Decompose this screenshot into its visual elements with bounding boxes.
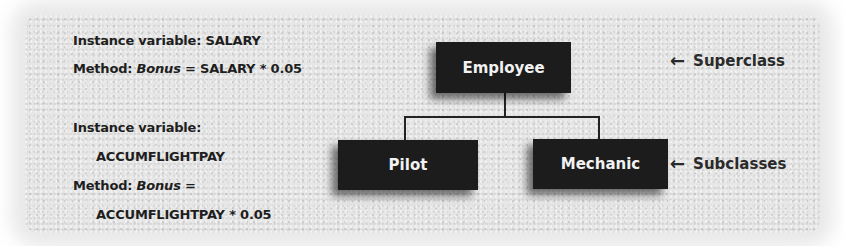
method-name: Bonus: [137, 61, 181, 76]
connector-horizontal: [404, 116, 600, 118]
method-expression: = SALARY * 0.05: [181, 61, 302, 76]
employee-label: Employee: [462, 59, 544, 77]
superclass-annotation: ← Superclass: [670, 52, 785, 70]
arrow-left-icon: ←: [670, 155, 685, 173]
subclasses-label: Subclasses: [693, 155, 786, 173]
mechanic-class-box: Mechanic: [533, 139, 668, 189]
method-prefix: Method:: [73, 178, 137, 193]
arrow-left-icon: ←: [670, 52, 685, 70]
subclass-method: Method: Bonus =: [73, 178, 196, 193]
superclass-instance-variable: Instance variable: SALARY: [73, 33, 261, 48]
connector-to-pilot: [404, 116, 406, 140]
subclass-instance-variable-label: Instance variable:: [73, 120, 201, 135]
connector-vertical-main: [504, 92, 506, 117]
subclasses-annotation: ← Subclasses: [670, 155, 786, 173]
superclass-label: Superclass: [693, 52, 785, 70]
pilot-label: Pilot: [389, 156, 428, 174]
method-name: Bonus: [137, 178, 181, 193]
superclass-method: Method: Bonus = SALARY * 0.05: [73, 61, 302, 76]
subclass-instance-variable-value: ACCUMFLIGHTPAY: [96, 149, 225, 164]
employee-class-box: Employee: [436, 42, 571, 93]
mechanic-label: Mechanic: [561, 155, 641, 173]
connector-to-mechanic: [598, 116, 600, 140]
method-prefix: Method:: [73, 61, 137, 76]
subclass-method-expression: ACCUMFLIGHTPAY * 0.05: [96, 207, 271, 222]
method-expression: =: [181, 178, 196, 193]
pilot-class-box: Pilot: [338, 140, 478, 190]
